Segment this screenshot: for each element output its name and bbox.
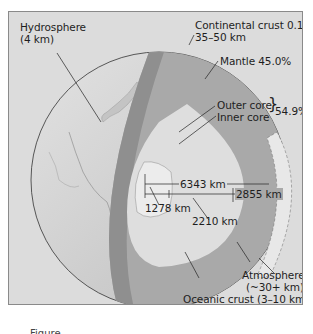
figure-caption: Figure [30, 326, 61, 334]
label-hydrosphere: Hydrosphere [20, 21, 86, 33]
label-core-percent: 54.9% [275, 105, 303, 117]
label-mantle: Mantle 45.0% [220, 55, 291, 67]
label-atmosphere: Atmosphere [242, 269, 303, 281]
diagram-frame: Hydrosphere (4 km) Continental crust 0.1… [8, 11, 303, 305]
label-outer-core-thickness: 2210 km [192, 215, 238, 227]
label-atmosphere-depth: (~30+ km) [246, 281, 303, 293]
label-inner-core-radius: 1278 km [145, 202, 191, 214]
label-inner-core: Inner core [217, 111, 269, 123]
label-radius-total: 6343 km [179, 178, 227, 190]
label-continental-crust: Continental crust 0.1% [195, 19, 303, 31]
label-outer-core: Outer core [217, 99, 272, 111]
label-oceanic-crust: Oceanic crust (3–10 km) [183, 293, 303, 305]
label-mantle-thickness: 2855 km [235, 188, 283, 200]
label-continental-crust-depth: 35–50 km [195, 31, 246, 43]
label-hydrosphere-depth: (4 km) [20, 33, 54, 45]
